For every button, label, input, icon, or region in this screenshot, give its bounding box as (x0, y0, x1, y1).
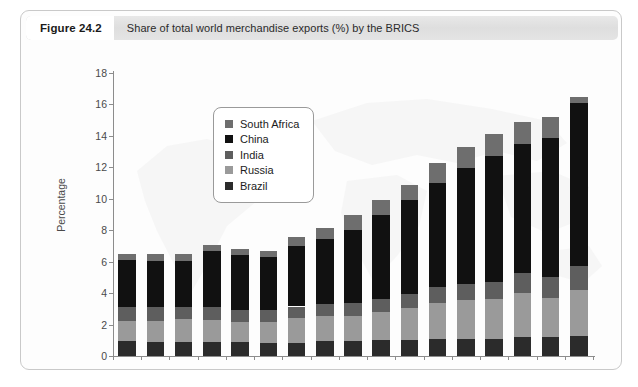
bar-segment-south-africa[interactable] (570, 97, 588, 103)
bar-segment-china[interactable] (344, 230, 362, 303)
bar-group[interactable] (344, 73, 362, 356)
bar-segment-brazil[interactable] (344, 341, 362, 356)
bar-segment-china[interactable] (542, 138, 560, 277)
legend-item[interactable]: China (225, 132, 299, 148)
bar-segment-brazil[interactable] (175, 342, 193, 356)
bar-segment-china[interactable] (260, 257, 278, 310)
bar-segment-india[interactable] (372, 299, 390, 312)
bar-segment-brazil[interactable] (401, 340, 419, 357)
bar-segment-china[interactable] (429, 183, 447, 287)
bar-segment-india[interactable] (260, 310, 278, 322)
bar-group[interactable] (570, 73, 588, 356)
bar-segment-brazil[interactable] (514, 337, 532, 356)
bar-segment-south-africa[interactable] (231, 249, 249, 255)
bar-segment-south-africa[interactable] (514, 122, 532, 144)
bar-segment-russia[interactable] (118, 321, 136, 341)
bar-segment-china[interactable] (372, 215, 390, 299)
bar-segment-india[interactable] (231, 310, 249, 323)
bar-segment-india[interactable] (175, 307, 193, 319)
bar-segment-south-africa[interactable] (457, 147, 475, 168)
bar-segment-south-africa[interactable] (401, 185, 419, 200)
bar-segment-india[interactable] (316, 304, 334, 316)
bar-segment-brazil[interactable] (147, 342, 165, 356)
bar-segment-russia[interactable] (485, 299, 503, 338)
bar-segment-china[interactable] (288, 246, 306, 307)
bar-segment-russia[interactable] (514, 293, 532, 337)
bar-group[interactable] (514, 73, 532, 356)
bar-segment-brazil[interactable] (203, 342, 221, 356)
bar-segment-south-africa[interactable] (372, 200, 390, 216)
bar-group[interactable] (401, 73, 419, 356)
bar-segment-russia[interactable] (429, 303, 447, 339)
bar-segment-brazil[interactable] (118, 341, 136, 356)
bar-segment-china[interactable] (401, 200, 419, 294)
bar-segment-india[interactable] (542, 277, 560, 297)
bar-segment-brazil[interactable] (570, 336, 588, 356)
bar-segment-russia[interactable] (344, 316, 362, 341)
bar-segment-russia[interactable] (203, 320, 221, 342)
bar-segment-brazil[interactable] (372, 340, 390, 356)
bar-segment-china[interactable] (118, 260, 136, 307)
bar-segment-south-africa[interactable] (203, 245, 221, 251)
bar-segment-russia[interactable] (372, 312, 390, 340)
bar-segment-china[interactable] (316, 239, 334, 304)
bar-group[interactable] (485, 73, 503, 356)
bar-segment-russia[interactable] (288, 318, 306, 342)
bar-segment-india[interactable] (147, 307, 165, 320)
legend-item[interactable]: Brazil (225, 178, 299, 194)
bar-group[interactable] (118, 73, 136, 356)
bar-segment-russia[interactable] (147, 321, 165, 342)
bar-group[interactable] (429, 73, 447, 356)
bar-segment-india[interactable] (288, 307, 306, 319)
bar-segment-south-africa[interactable] (542, 117, 560, 138)
bar-segment-china[interactable] (485, 156, 503, 283)
bar-group[interactable] (542, 73, 560, 356)
bar-segment-india[interactable] (429, 287, 447, 303)
bar-segment-russia[interactable] (457, 300, 475, 339)
bar-segment-russia[interactable] (260, 322, 278, 342)
bar-segment-china[interactable] (147, 261, 165, 307)
bar-segment-china[interactable] (175, 261, 193, 307)
bar-segment-brazil[interactable] (260, 343, 278, 356)
bar-segment-brazil[interactable] (288, 343, 306, 356)
bar-segment-india[interactable] (485, 282, 503, 299)
bar-segment-india[interactable] (203, 307, 221, 320)
bar-segment-south-africa[interactable] (429, 163, 447, 183)
bar-segment-brazil[interactable] (542, 337, 560, 356)
bar-segment-india[interactable] (457, 284, 475, 301)
bar-segment-south-africa[interactable] (344, 215, 362, 230)
bar-segment-south-africa[interactable] (316, 228, 334, 239)
bar-group[interactable] (147, 73, 165, 356)
bar-segment-russia[interactable] (401, 308, 419, 339)
bar-segment-south-africa[interactable] (260, 251, 278, 257)
bar-segment-china[interactable] (231, 255, 249, 309)
bar-group[interactable] (457, 73, 475, 356)
bar-segment-china[interactable] (457, 168, 475, 284)
bar-segment-brazil[interactable] (457, 339, 475, 356)
bar-segment-south-africa[interactable] (485, 134, 503, 155)
bar-segment-china[interactable] (514, 144, 532, 274)
bar-segment-india[interactable] (401, 294, 419, 308)
bar-segment-russia[interactable] (231, 322, 249, 342)
bar-segment-brazil[interactable] (429, 339, 447, 356)
bar-segment-india[interactable] (570, 266, 588, 290)
bar-segment-brazil[interactable] (485, 339, 503, 356)
legend-item[interactable]: Russia (225, 163, 299, 179)
bar-segment-brazil[interactable] (231, 342, 249, 356)
legend-item[interactable]: India (225, 147, 299, 163)
bar-segment-south-africa[interactable] (147, 254, 165, 261)
bar-segment-russia[interactable] (570, 290, 588, 336)
bar-segment-russia[interactable] (542, 298, 560, 337)
bar-segment-south-africa[interactable] (175, 254, 193, 261)
bar-segment-russia[interactable] (316, 316, 334, 341)
bar-group[interactable] (175, 73, 193, 356)
legend-item[interactable]: South Africa (225, 116, 299, 132)
bar-segment-india[interactable] (344, 303, 362, 316)
bar-segment-india[interactable] (118, 307, 136, 321)
bar-group[interactable] (372, 73, 390, 356)
bar-segment-south-africa[interactable] (118, 254, 136, 260)
bar-segment-russia[interactable] (175, 319, 193, 342)
bar-segment-south-africa[interactable] (288, 237, 306, 246)
bar-segment-china[interactable] (570, 103, 588, 267)
bar-segment-brazil[interactable] (316, 341, 334, 356)
